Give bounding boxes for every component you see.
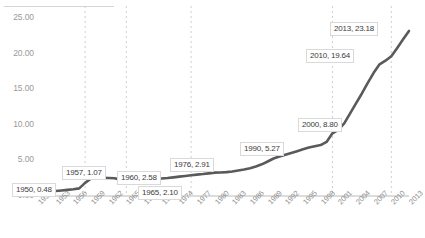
label-1950: 1950, 0.48 bbox=[12, 183, 56, 197]
y-axis-tick-20-00: 20.00 bbox=[0, 48, 34, 58]
label-1957: 1957, 1.07 bbox=[62, 166, 106, 180]
label-2000: 2000, 8.80 bbox=[298, 118, 342, 132]
label-2010: 2010, 19.64 bbox=[306, 49, 354, 63]
y-axis-tick-25-00: 25.00 bbox=[0, 12, 34, 22]
y-axis-tick-15-00: 15.00 bbox=[0, 83, 34, 93]
label-1965: 1965, 2.10 bbox=[138, 186, 182, 200]
label-1960: 1960, 2.58 bbox=[117, 171, 161, 185]
label-1976: 1976, 2.91 bbox=[170, 158, 214, 172]
y-axis-tick-10-00: 10.00 bbox=[0, 119, 34, 129]
label-2013: 2013, 23.18 bbox=[330, 22, 378, 36]
label-1990: 1990, 5.27 bbox=[240, 142, 284, 156]
y-axis-tick-5-00: 5.00 bbox=[0, 154, 34, 164]
